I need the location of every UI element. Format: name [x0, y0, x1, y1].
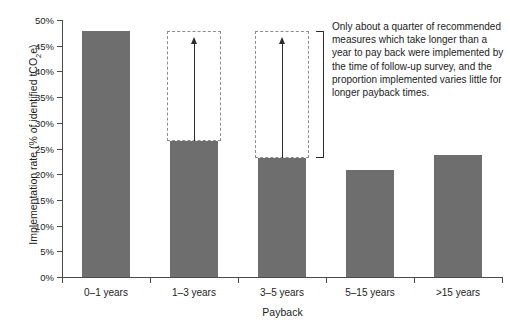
y-axis-title-prefix: Implementation rate (% of identified tCO [27, 58, 39, 245]
x-tick-mark [150, 278, 151, 283]
x-tick-label: 1–3 years [144, 288, 244, 298]
y-axis-title-suffix: e) [27, 44, 39, 53]
gap-arrow-3-5-years-head [279, 37, 285, 44]
x-tick-label: 0–1 years [56, 288, 156, 298]
gap-arrow-1-3-years-head [191, 37, 197, 44]
bar[interactable] [170, 141, 218, 277]
y-axis-title-subscript: 2 [34, 54, 43, 58]
x-tick-label: 5–15 years [320, 288, 420, 298]
x-axis-line [62, 277, 503, 278]
bar[interactable] [258, 158, 306, 277]
annotation-text: Only about a quarter of recommended meas… [332, 20, 508, 99]
x-tick-mark [238, 278, 239, 283]
x-tick-mark [62, 278, 63, 283]
x-tick-label: 3–5 years [232, 288, 332, 298]
bar[interactable] [346, 170, 394, 277]
x-tick-mark [414, 278, 415, 283]
gap-arrow-3-5-years [282, 43, 283, 158]
gap-arrow-1-3-years [194, 43, 195, 141]
y-axis-title: Implementation rate (% of identified tCO… [27, 15, 42, 275]
x-tick-mark [502, 278, 503, 283]
x-tick-label: >15 years [408, 288, 508, 298]
x-tick-mark [326, 278, 327, 283]
callout-bracket [316, 31, 324, 157]
x-axis-title: Payback [62, 306, 503, 318]
bar-chart-figure: 0%5%10%15%20%25%30%35%40%45%50% 0–1 year… [0, 0, 510, 327]
bar[interactable] [434, 155, 482, 277]
bar[interactable] [82, 31, 130, 277]
